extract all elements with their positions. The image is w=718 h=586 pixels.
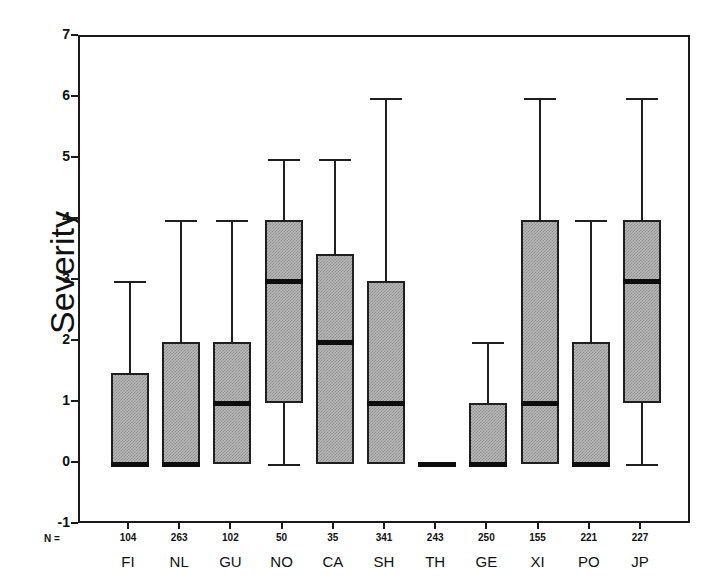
- whisker-upper-cap-nl: [165, 220, 197, 222]
- median-line-ge: [469, 462, 507, 467]
- plot-frame: [78, 35, 690, 523]
- whisker-upper-stem-po: [590, 220, 592, 342]
- whisker-upper-stem-ge: [487, 342, 489, 403]
- median-line-nl: [162, 462, 200, 467]
- whisker-upper-stem-gu: [231, 220, 233, 342]
- x-tick-ge: [485, 523, 487, 529]
- x-tick-nl: [178, 523, 180, 529]
- category-label-jp: JP: [610, 553, 670, 570]
- y-tick-6: [71, 95, 78, 97]
- n-row-label: N =: [44, 533, 60, 544]
- whisker-upper-stem-no: [283, 159, 285, 220]
- box-xi: [521, 220, 559, 464]
- y-tick-4: [71, 217, 78, 219]
- whisker-lower-stem-jp: [641, 403, 643, 464]
- box-fi: [111, 373, 149, 465]
- y-tick-label-6: 6: [36, 87, 70, 103]
- y-tick-label-5: 5: [36, 148, 70, 164]
- box-ge: [469, 403, 507, 464]
- whisker-upper-stem-xi: [539, 98, 541, 220]
- whisker-upper-cap-po: [575, 220, 607, 222]
- whisker-upper-stem-sh: [385, 98, 387, 281]
- x-tick-th: [434, 523, 436, 529]
- whisker-upper-cap-no: [268, 159, 300, 161]
- x-tick-gu: [229, 523, 231, 529]
- y-tick-1: [71, 400, 78, 402]
- whisker-upper-cap-fi: [114, 281, 146, 283]
- y-tick-label-7: 7: [36, 26, 70, 42]
- median-line-sh: [367, 401, 405, 406]
- whisker-upper-stem-ca: [334, 159, 336, 254]
- median-line-fi: [111, 462, 149, 467]
- whisker-upper-stem-fi: [129, 281, 131, 373]
- y-tick-label-0: 0: [36, 453, 70, 469]
- y-tick-label-neg1: -1: [36, 514, 70, 530]
- x-tick-sh: [383, 523, 385, 529]
- median-line-ca: [316, 340, 354, 345]
- box-no: [265, 220, 303, 403]
- degenerate-box-th: [418, 462, 456, 467]
- y-tick-2: [71, 339, 78, 341]
- whisker-lower-cap-jp: [626, 464, 658, 466]
- box-nl: [162, 342, 200, 464]
- whisker-upper-cap-sh: [370, 98, 402, 100]
- whisker-upper-cap-xi: [524, 98, 556, 100]
- x-tick-ca: [332, 523, 334, 529]
- whisker-upper-cap-ca: [319, 159, 351, 161]
- x-tick-jp: [639, 523, 641, 529]
- median-line-no: [265, 279, 303, 284]
- whisker-upper-cap-gu: [216, 220, 248, 222]
- y-tick-label-1: 1: [36, 392, 70, 408]
- y-tick-label-4: 4: [36, 209, 70, 225]
- median-line-gu: [213, 401, 251, 406]
- y-tick-label-3: 3: [36, 270, 70, 286]
- n-value-jp: 227: [610, 532, 670, 543]
- x-tick-no: [281, 523, 283, 529]
- plot-area: [80, 37, 688, 521]
- whisker-lower-cap-no: [268, 464, 300, 466]
- median-line-jp: [623, 279, 661, 284]
- whisker-upper-stem-nl: [180, 220, 182, 342]
- boxplot-figure: Severity -101234567 N = 1042631025035341…: [0, 0, 718, 586]
- box-ca: [316, 254, 354, 464]
- median-line-xi: [521, 401, 559, 406]
- x-tick-po: [588, 523, 590, 529]
- box-po: [572, 342, 610, 464]
- y-tick-3: [71, 278, 78, 280]
- box-jp: [623, 220, 661, 403]
- y-tick-7: [71, 34, 78, 36]
- x-tick-xi: [537, 523, 539, 529]
- whisker-upper-stem-jp: [641, 98, 643, 220]
- whisker-lower-stem-no: [283, 403, 285, 464]
- box-sh: [367, 281, 405, 464]
- x-tick-fi: [127, 523, 129, 529]
- median-line-po: [572, 462, 610, 467]
- y-tick-0: [71, 461, 78, 463]
- whisker-upper-cap-ge: [472, 342, 504, 344]
- y-tick-5: [71, 156, 78, 158]
- y-tick-neg1: [71, 522, 78, 524]
- whisker-upper-cap-jp: [626, 98, 658, 100]
- y-tick-label-2: 2: [36, 331, 70, 347]
